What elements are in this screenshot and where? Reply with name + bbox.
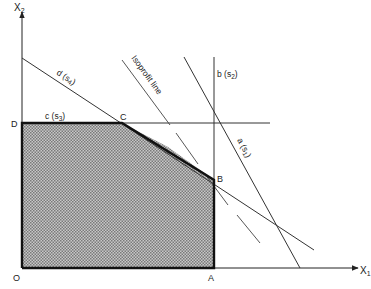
vertex-c-label: C xyxy=(120,112,127,122)
constraint-a-label: a (s1) xyxy=(235,136,254,159)
isoprofit-label: Isoprofit line xyxy=(129,53,164,96)
x2-axis-label: X2 xyxy=(14,2,25,14)
lp-diagram: X2 X1 O A B C D c (s3) d (s4) b (s2) a (… xyxy=(0,0,371,289)
constraint-d-label: d (s4) xyxy=(55,67,78,87)
vertex-a-label: A xyxy=(208,273,214,283)
feasible-region xyxy=(22,123,214,268)
vertex-d-label: D xyxy=(11,119,18,129)
vertex-b-label: B xyxy=(217,174,223,184)
constraint-b-label: b (s2) xyxy=(217,69,238,80)
constraint-c-label: c (s3) xyxy=(45,111,65,122)
x1-axis-label: X1 xyxy=(360,265,371,277)
vertex-o-label: O xyxy=(13,273,20,283)
